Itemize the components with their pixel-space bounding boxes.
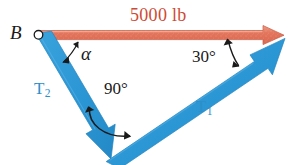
tension-t1-label: T1 [196,98,213,118]
tension-t1-symbol: T [196,97,206,116]
force-triangle-figure: B 5000 lb α 90° 30° T2 T1 [0,0,301,165]
angle-90-label: 90° [104,80,128,97]
angle-alpha-arc [62,41,78,63]
point-b-marker [34,31,43,40]
resultant-force-label: 5000 lb [130,6,187,24]
point-b-label: B [10,23,22,42]
resultant-force-vector [40,26,284,45]
angle-30-arc [224,39,240,68]
tension-t2-label: T2 [34,80,51,100]
angle-alpha-label: α [81,44,91,63]
tension-t2-symbol: T [34,79,44,98]
angle-30-label: 30° [192,48,216,65]
tension-t2-subscript: 2 [44,87,50,100]
tension-t1-subscript: 1 [206,105,212,118]
